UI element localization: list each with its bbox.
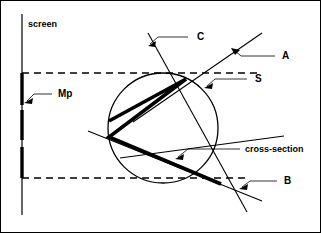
callout-cross-section-leader — [178, 149, 240, 157]
label-b: B — [284, 175, 291, 186]
callout-a-leader — [234, 50, 275, 56]
callout-c-leader — [150, 37, 188, 44]
callout-s-arrowhead — [204, 83, 213, 89]
diagram-figure: C A S Mp cross-section — [0, 0, 321, 233]
callout-cross-section: cross-section — [175, 144, 304, 160]
label-screen: screen — [28, 19, 57, 29]
callout-c: C — [148, 31, 204, 47]
figure-border — [1, 1, 321, 233]
callout-b-arrowhead — [239, 184, 248, 190]
label-mp: Mp — [58, 88, 72, 99]
callout-s: S — [204, 73, 262, 89]
callout-cross-section-arrowhead — [175, 154, 184, 160]
line-c — [148, 33, 247, 212]
diagram-canvas: C A S Mp cross-section — [0, 0, 321, 233]
callout-s-leader — [207, 79, 247, 86]
callout-mp-arrowhead — [24, 98, 33, 104]
label-cross-section: cross-section — [245, 144, 304, 154]
callout-mp: Mp — [24, 88, 72, 104]
callout-b: B — [239, 175, 291, 190]
label-a: A — [282, 50, 289, 61]
label-c: C — [197, 31, 204, 42]
callout-a: A — [231, 48, 289, 61]
label-s: S — [255, 73, 262, 84]
